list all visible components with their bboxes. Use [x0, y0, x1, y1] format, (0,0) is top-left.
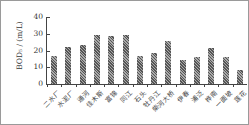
- bar: [194, 57, 200, 84]
- bar: [237, 70, 243, 84]
- bar: [137, 56, 143, 84]
- bar: [108, 36, 114, 84]
- x-axis-labels: 二水厂水泥厂通河佳木斯富锦同江石头牡丹江柴河大桥伊春浦泛桦南一面坡莲花: [46, 87, 246, 125]
- bar: [80, 45, 86, 84]
- bar: [151, 53, 157, 84]
- y-tick-label: 30: [31, 30, 43, 38]
- y-tick-mark: [47, 67, 50, 68]
- bar: [51, 56, 57, 84]
- bar: [180, 60, 186, 84]
- y-tick-label: 20: [31, 47, 43, 55]
- y-tick-label: 0: [31, 80, 43, 88]
- bar: [165, 41, 171, 84]
- x-tick-label: 莲花: [231, 87, 248, 104]
- bar: [65, 47, 71, 84]
- y-tick-mark: [47, 17, 50, 18]
- y-tick-mark: [47, 51, 50, 52]
- y-tick-label: 40: [31, 13, 43, 21]
- bar: [208, 48, 214, 84]
- y-axis-label: BOD₅ / (m/L): [15, 16, 24, 76]
- plot-area: 010203040: [46, 17, 247, 85]
- bar: [123, 35, 129, 84]
- bar: [94, 35, 100, 84]
- y-tick-mark: [47, 34, 50, 35]
- chart-frame: BOD₅ / (m/L) 010203040 二水厂水泥厂通河佳木斯富锦同江石头…: [0, 0, 249, 125]
- y-tick-label: 10: [31, 63, 43, 71]
- bar: [223, 57, 229, 84]
